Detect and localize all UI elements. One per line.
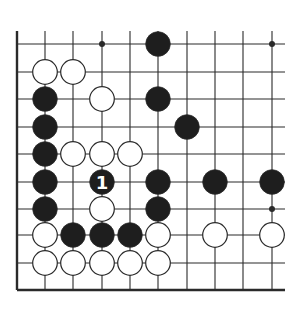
black-stone	[33, 170, 58, 195]
black-stone	[118, 223, 143, 248]
white-stone	[203, 223, 228, 248]
black-stone-icon	[260, 170, 285, 195]
black-stone	[260, 170, 285, 195]
black-stone	[146, 170, 171, 195]
black-stone-icon	[146, 170, 171, 195]
black-stone	[61, 223, 86, 248]
white-stone-icon	[203, 223, 228, 248]
white-stone	[33, 60, 58, 85]
white-stone	[33, 223, 58, 248]
white-stone	[90, 197, 115, 222]
white-stone-icon	[118, 251, 143, 276]
black-stone	[33, 142, 58, 167]
white-stone	[61, 251, 86, 276]
white-stone-icon	[33, 223, 58, 248]
black-stone-icon	[175, 115, 200, 140]
white-stone-icon	[90, 87, 115, 112]
black-stone-icon	[90, 223, 115, 248]
white-stone	[90, 87, 115, 112]
go-board-diagram: 1	[0, 0, 307, 311]
white-stone-icon	[61, 60, 86, 85]
black-stone-icon	[146, 87, 171, 112]
white-stone	[118, 251, 143, 276]
black-stone	[146, 197, 171, 222]
star-point-icon	[99, 41, 105, 47]
white-stone	[61, 60, 86, 85]
black-stone-icon	[146, 197, 171, 222]
white-stone	[90, 142, 115, 167]
black-stone	[90, 223, 115, 248]
black-stone-icon	[118, 223, 143, 248]
black-stone-icon	[146, 32, 171, 57]
white-stone	[33, 251, 58, 276]
black-stone-icon	[33, 115, 58, 140]
black-stone-icon	[203, 170, 228, 195]
white-stone	[146, 223, 171, 248]
black-stone-icon	[33, 142, 58, 167]
white-stone	[146, 251, 171, 276]
black-stone: 1	[90, 170, 115, 195]
black-stone-icon	[33, 197, 58, 222]
star-point-icon	[269, 206, 275, 212]
black-stone	[175, 115, 200, 140]
move-number-label: 1	[96, 172, 109, 193]
white-stone-icon	[118, 142, 143, 167]
white-stone-icon	[61, 142, 86, 167]
white-stone-icon	[90, 251, 115, 276]
white-stone-icon	[90, 142, 115, 167]
black-stone	[33, 115, 58, 140]
white-stone-icon	[146, 251, 171, 276]
white-stone-icon	[33, 60, 58, 85]
white-stone-icon	[61, 251, 86, 276]
star-point-icon	[269, 41, 275, 47]
white-stone-icon	[33, 251, 58, 276]
white-stone-icon	[260, 223, 285, 248]
black-stone	[33, 197, 58, 222]
white-stone	[90, 251, 115, 276]
black-stone-icon	[33, 87, 58, 112]
black-stone-icon	[33, 170, 58, 195]
white-stone	[118, 142, 143, 167]
black-stone	[33, 87, 58, 112]
white-stone	[61, 142, 86, 167]
black-stone	[203, 170, 228, 195]
white-stone-icon	[146, 223, 171, 248]
black-stone	[146, 87, 171, 112]
white-stone	[260, 223, 285, 248]
black-stone-icon	[61, 223, 86, 248]
white-stone-icon	[90, 197, 115, 222]
black-stone	[146, 32, 171, 57]
